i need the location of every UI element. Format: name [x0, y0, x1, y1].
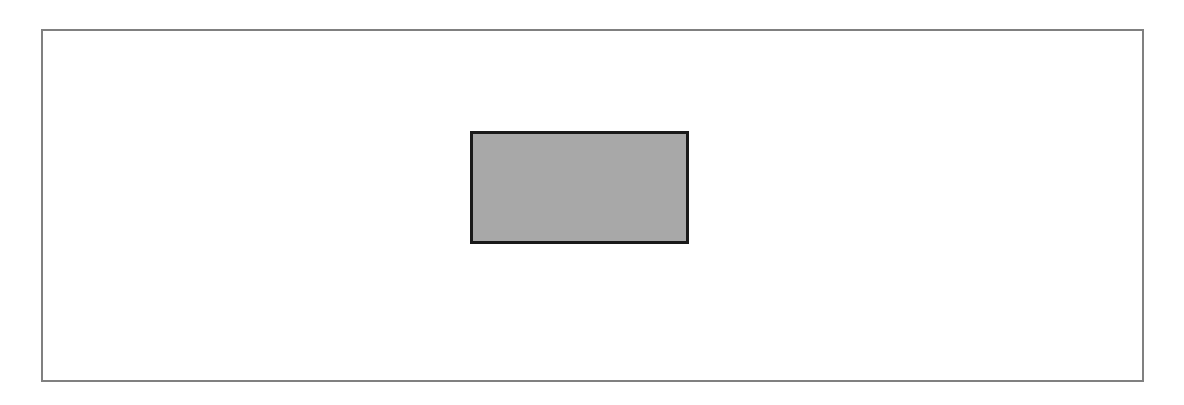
inner-rectangle	[470, 131, 689, 244]
diagram-canvas	[0, 0, 1184, 405]
